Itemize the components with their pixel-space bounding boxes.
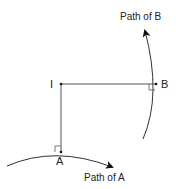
point-a-label: A	[56, 155, 64, 167]
right-angle-marker-b	[149, 84, 155, 90]
path-b-curve	[143, 31, 153, 139]
path-a-label: Path of A	[84, 172, 125, 183]
diagram-canvas: I B A Path of B Path of A	[0, 0, 176, 189]
path-b-label: Path of B	[120, 11, 161, 22]
point-a-dot	[60, 151, 63, 154]
point-b-label: B	[161, 78, 168, 90]
point-i-dot	[60, 83, 63, 86]
point-b-dot	[155, 83, 158, 86]
point-i-label: I	[50, 78, 53, 90]
